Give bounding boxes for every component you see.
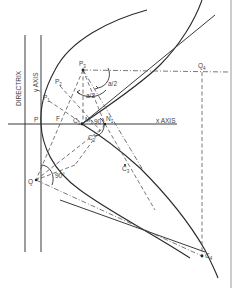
angle-half-a-upper-label: a/2 (108, 80, 117, 87)
n1-to-c2-line (75, 124, 105, 165)
arrowhead (95, 86, 98, 89)
y-axis-label: y AXIS (32, 72, 40, 92)
p2-label: P2 (55, 78, 62, 87)
point-p3 (82, 69, 85, 72)
point-q (35, 179, 37, 181)
c3-label: C3 (122, 165, 130, 174)
q4-label: Q4 (198, 62, 206, 71)
tangent-line-upper (82, 15, 215, 124)
parabola-curve (41, 10, 190, 258)
angle-90-upper-label: 90° (94, 118, 104, 125)
directrix-label: DIRECTRIX (15, 70, 22, 106)
p3-label: P3 (79, 60, 86, 69)
n1-to-c3-line (105, 124, 155, 210)
p3-to-q4-line (83, 70, 228, 72)
point-n1 (104, 123, 106, 125)
x-axis-label: x AXIS (156, 117, 176, 124)
point-c1 (81, 123, 84, 126)
focus-label: F (56, 115, 60, 122)
p1-label: P1 (43, 94, 50, 103)
arrowhead (77, 90, 80, 94)
secondary-curve-upper (82, 0, 202, 124)
secondary-curve-lower (82, 124, 218, 278)
point-c4 (201, 255, 204, 258)
angle-90-lower-label: 90° (55, 172, 65, 179)
parabola-diagram: DIRECTRIX y AXIS x AXIS P F P1 P2 P3 C1 … (0, 0, 236, 288)
angle-half-a-lower-label: a/2 (86, 92, 95, 99)
c4-label: C4 (205, 252, 213, 261)
q-label: Q (28, 178, 33, 186)
n1-label: N1 (106, 115, 114, 124)
vertex-label: P (34, 116, 38, 123)
tangent-line-lower (60, 200, 205, 252)
q-to-c4-line (36, 180, 202, 256)
c2-label: C2 (88, 134, 96, 143)
